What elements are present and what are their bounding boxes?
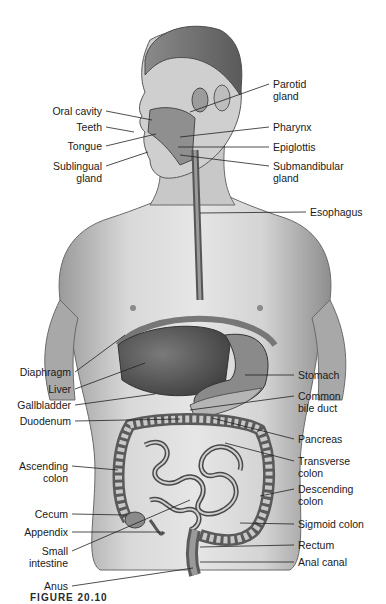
label-pharynx: Pharynx (273, 121, 312, 133)
leader-line-sublingual-gland (106, 152, 148, 166)
label-stomach: Stomach (298, 369, 339, 381)
label-pancreas: Pancreas (298, 433, 342, 445)
figure-caption: FIGURE 20.10 (30, 592, 108, 603)
label-oral-cavity: Oral cavity (52, 105, 102, 117)
leader-line-anus (72, 568, 193, 586)
label-anus: Anus (44, 580, 68, 592)
label-cecum: Cecum (35, 508, 68, 520)
label-anal-canal: Anal canal (298, 556, 347, 568)
label-rectum: Rectum (298, 539, 334, 551)
label-submandibular-gland: Submandibulargland (273, 160, 344, 184)
label-common-bile-duct: Commonbile duct (298, 390, 341, 414)
label-epiglottis: Epiglottis (273, 141, 316, 153)
label-small-intestine: Smallintestine (29, 545, 68, 569)
label-duodenum: Duodenum (20, 415, 71, 427)
leader-line-teeth (106, 127, 134, 132)
label-appendix: Appendix (24, 526, 68, 538)
label-tongue: Tongue (68, 140, 102, 152)
label-descending-colon: Descendingcolon (298, 483, 353, 507)
label-diaphragm: Diaphragm (20, 366, 71, 378)
label-gallbladder: Gallbladder (17, 399, 71, 411)
label-liver: Liver (48, 383, 71, 395)
label-parotid-gland: Parotidgland (273, 78, 306, 102)
label-sigmoid-colon: Sigmoid colon (298, 518, 364, 530)
label-esophagus: Esophagus (310, 206, 363, 218)
label-sublingual-gland: Sublingualgland (53, 160, 102, 184)
label-teeth: Teeth (76, 121, 102, 133)
label-transverse-colon: Transversecolon (298, 455, 350, 479)
label-ascending-colon: Ascendingcolon (19, 460, 68, 484)
